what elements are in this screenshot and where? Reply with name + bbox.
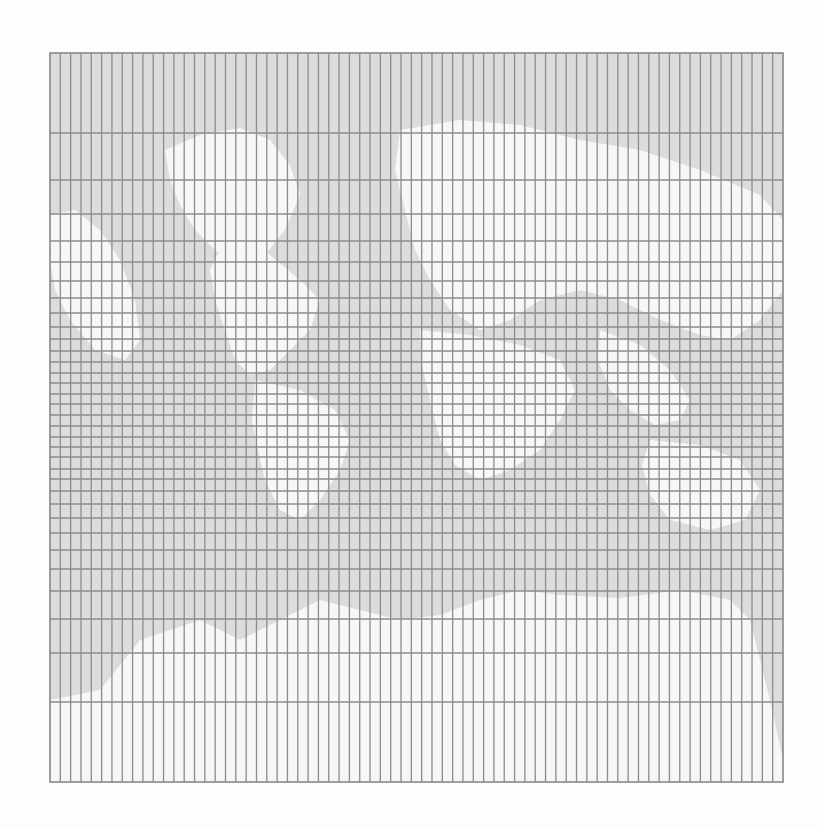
world-map-graticule xyxy=(0,0,818,827)
map-figure xyxy=(0,0,818,827)
